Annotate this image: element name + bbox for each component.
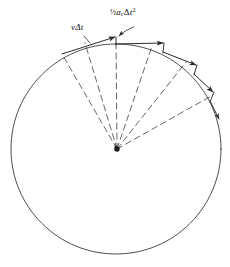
- tangential-arrow-5: [210, 101, 219, 119]
- centripetal-label-leader: [119, 27, 134, 36]
- radius-line-6: [117, 95, 213, 149]
- label-tangential-step-text: vΔt: [71, 22, 83, 32]
- radius-line-5: [117, 62, 186, 149]
- tangential-label-leader: [84, 36, 90, 43]
- drop-segment-4: [210, 92, 214, 102]
- radius-line-2: [85, 43, 117, 149]
- tangential-arrow-3: [163, 52, 196, 65]
- tangential-step-arrows: [62, 37, 219, 119]
- label-exponent-two: 2: [132, 7, 135, 13]
- tangential-arrow-4: [194, 74, 213, 92]
- radii-group: [62, 40, 213, 149]
- label-tangential-step: vΔt: [71, 23, 83, 32]
- tangential-arrow-1: [62, 37, 115, 54]
- radius-line-3: [116, 40, 117, 149]
- drop-segment-2: [163, 43, 164, 53]
- tangential-arrow-2: [116, 43, 163, 44]
- diagram-canvas: [0, 0, 230, 267]
- radius-line-4: [117, 46, 152, 149]
- centripetal-drop-segments: [116, 37, 214, 102]
- radius-line-1: [62, 54, 117, 149]
- drop-segment-3: [194, 65, 197, 75]
- label-centripetal-fall: ½acΔt2: [110, 7, 136, 17]
- circular-motion-figure: vΔt ½acΔt2: [0, 0, 230, 267]
